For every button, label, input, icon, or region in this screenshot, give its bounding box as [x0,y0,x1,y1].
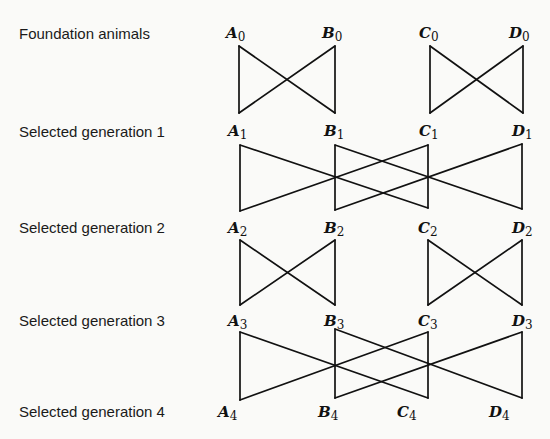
bowtie-ac-gen1 [240,145,428,211]
bowtie-cd-gen0 [430,46,523,113]
mating-lines [0,0,550,439]
bowtie-ab-gen0 [239,46,335,113]
bowtie-ac-gen3 [240,332,428,400]
bowtie-ab-gen2 [240,240,335,305]
bowtie-cd-gen2 [428,240,522,305]
